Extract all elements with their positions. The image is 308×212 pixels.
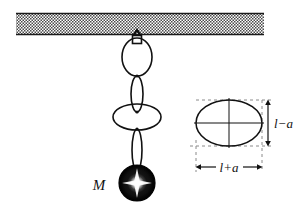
figure-canvas: M l−a bbox=[0, 0, 308, 212]
physics-figure: M l−a bbox=[0, 0, 308, 212]
ellipse-geometry-inset: l−a l+a bbox=[190, 98, 293, 175]
chain-link-3 bbox=[113, 104, 161, 130]
mass-label: M bbox=[92, 177, 107, 193]
pendulum-ball-group bbox=[119, 165, 155, 201]
minor-axis-label: l−a bbox=[274, 116, 293, 131]
chain-joint-2 bbox=[135, 110, 138, 113]
minor-axis-dimension bbox=[265, 100, 271, 147]
pendulum-group bbox=[113, 30, 161, 171]
chain-joint-3 bbox=[135, 127, 138, 130]
chain-joint-1 bbox=[135, 74, 138, 77]
major-axis-label: l+a bbox=[220, 160, 239, 175]
chain-link-2 bbox=[131, 76, 143, 112]
hatched-ceiling bbox=[16, 13, 264, 35]
ceiling-group bbox=[16, 13, 264, 35]
